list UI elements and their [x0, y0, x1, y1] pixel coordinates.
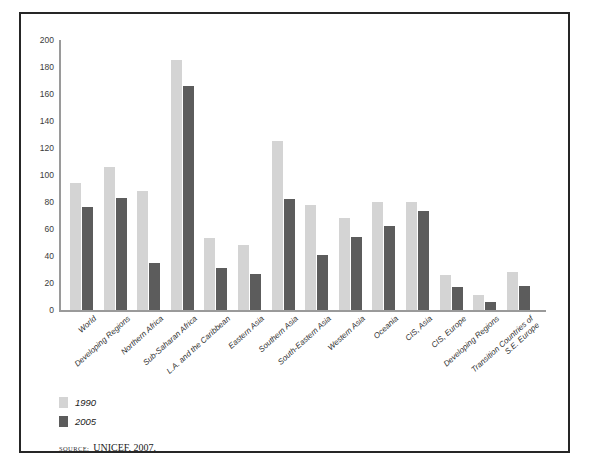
bar-2005 [284, 199, 295, 310]
y-tick-160: 160 [40, 90, 54, 99]
bar-1990 [507, 272, 518, 310]
y-tick-180: 180 [40, 63, 54, 72]
bar-group [507, 40, 531, 310]
y-tick-140: 140 [40, 117, 54, 126]
bar-group [339, 40, 363, 310]
bar-2005 [216, 268, 227, 310]
bar-1990 [372, 202, 383, 310]
bar-1990 [238, 245, 249, 310]
x-category-label: Transition Countries of S.E. Europe [469, 314, 541, 381]
bar-2005 [519, 286, 530, 310]
bar-group [440, 40, 464, 310]
legend-swatch-2005-icon [59, 416, 68, 427]
bar-group [70, 40, 94, 310]
y-tick-80: 80 [45, 198, 54, 207]
bar-2005 [452, 287, 463, 310]
y-tick-200: 200 [40, 36, 54, 45]
y-tick-120: 120 [40, 144, 54, 153]
bar-group [171, 40, 195, 310]
bar-group [372, 40, 396, 310]
bar-2005 [485, 302, 496, 310]
bar-2005 [351, 237, 362, 310]
bar-1990 [339, 218, 350, 310]
x-category-label: CIS, Asia [403, 314, 434, 343]
y-tick-20: 20 [45, 279, 54, 288]
bar-2005 [116, 198, 127, 310]
bar-1990 [406, 202, 417, 310]
bar-group [238, 40, 262, 310]
x-axis-line [59, 310, 546, 312]
bar-1990 [440, 275, 451, 310]
chart-legend: 1990 2005 [59, 395, 96, 433]
bar-1990 [70, 183, 81, 310]
chart-figure-frame: 020406080100120140160180200 WorldDevelop… [19, 12, 570, 453]
source-note: Source: UNICEF, 2007. [59, 442, 156, 453]
source-text: UNICEF, 2007. [93, 442, 156, 453]
y-tick-40: 40 [45, 252, 54, 261]
y-tick-60: 60 [45, 225, 54, 234]
y-tick-0: 0 [49, 306, 54, 315]
bar-1990 [272, 141, 283, 310]
bar-1990 [104, 167, 115, 310]
x-category-label: World [76, 314, 98, 335]
y-tick-100: 100 [40, 171, 54, 180]
x-axis-category-labels: WorldDeveloping RegionsNorthern AfricaSu… [59, 314, 559, 414]
bar-2005 [183, 86, 194, 310]
x-category-label: Oceania [372, 314, 400, 341]
bar-group [473, 40, 497, 310]
bar-1990 [204, 238, 215, 310]
legend-swatch-1990-icon [59, 397, 68, 408]
bar-group [137, 40, 161, 310]
source-kicker: Source: [59, 445, 89, 452]
bar-2005 [418, 211, 429, 310]
legend-label-2005: 2005 [75, 417, 96, 427]
bar-group [104, 40, 128, 310]
legend-item-1990: 1990 [59, 395, 96, 410]
plot-area: 020406080100120140160180200 [59, 40, 546, 312]
legend-item-2005: 2005 [59, 414, 96, 429]
bar-2005 [317, 255, 328, 310]
bar-2005 [82, 207, 93, 310]
bar-2005 [384, 226, 395, 310]
bar-group [406, 40, 430, 310]
bar-1990 [473, 295, 484, 310]
bar-2005 [149, 263, 160, 310]
bar-group [272, 40, 296, 310]
bar-1990 [305, 205, 316, 310]
legend-label-1990: 1990 [75, 398, 96, 408]
bar-1990 [137, 191, 148, 310]
x-category-label: L.A. and the Caribbean [165, 314, 232, 376]
bar-group [305, 40, 329, 310]
bar-series-layer [61, 40, 546, 310]
bar-2005 [250, 274, 261, 310]
bar-1990 [171, 60, 182, 310]
bar-group [204, 40, 228, 310]
